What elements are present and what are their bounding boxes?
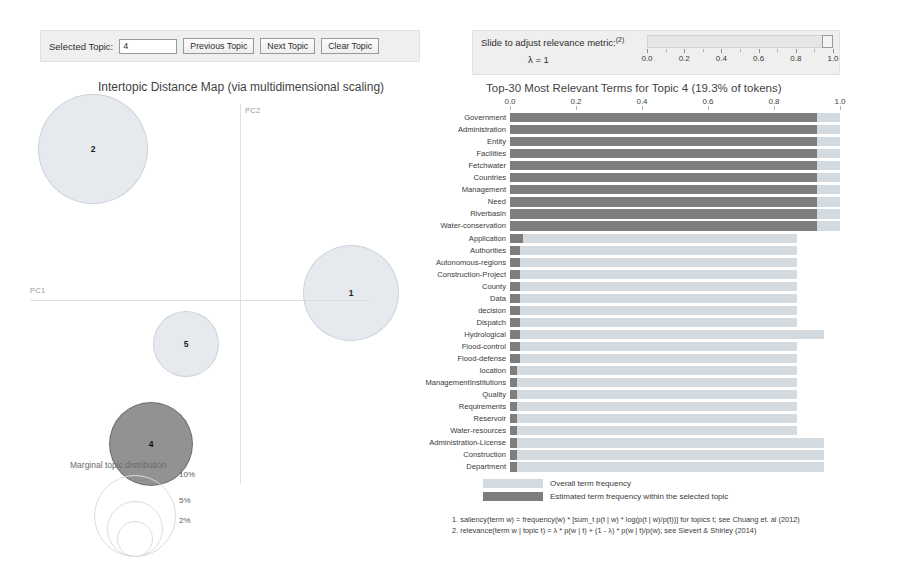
bar-row[interactable]: Reservoir <box>510 414 840 423</box>
bar-term-label[interactable]: location <box>480 365 506 376</box>
bar-row[interactable]: Construction <box>510 450 840 459</box>
legend-swatch-selected <box>483 492 543 501</box>
bar-row[interactable]: Authorities <box>510 246 840 255</box>
bar-topic-frequency <box>510 113 817 122</box>
bar-row[interactable]: Water-conservation <box>510 221 840 230</box>
bar-term-label[interactable]: Requirements <box>459 401 506 412</box>
bar-term-label[interactable]: Administration <box>458 124 506 135</box>
bar-overall-frequency <box>510 366 797 375</box>
bar-row[interactable]: Data <box>510 294 840 303</box>
bar-term-label[interactable]: Water-conservation <box>440 220 506 231</box>
bar-term-label[interactable]: Application <box>469 233 506 244</box>
bar-term-label[interactable]: Riverbasin <box>470 208 506 219</box>
slider-tick <box>647 49 648 53</box>
relevance-slider-track[interactable] <box>647 35 833 48</box>
bar-topic-frequency <box>510 390 517 399</box>
bar-topic-frequency <box>510 221 817 230</box>
bar-row[interactable]: Countries <box>510 173 840 182</box>
bar-row[interactable]: Administration-License <box>510 438 840 447</box>
marginal-size-label: 2% <box>179 516 191 525</box>
relevance-slider-panel: Slide to adjust relevance metric:(2) λ =… <box>472 30 840 75</box>
relevance-slider-handle[interactable] <box>822 35 833 48</box>
bar-overall-frequency <box>510 390 797 399</box>
bar-row[interactable]: Autonomous-regions <box>510 258 840 267</box>
clear-topic-button[interactable]: Clear Topic <box>321 38 379 54</box>
bar-row[interactable]: Quality <box>510 390 840 399</box>
bar-topic-frequency <box>510 125 817 134</box>
bar-axis-tick-label: 0.6 <box>702 97 713 106</box>
bar-topic-frequency <box>510 330 520 339</box>
bar-term-label[interactable]: Entity <box>487 136 506 147</box>
bar-row[interactable]: Fetchwater <box>510 161 840 170</box>
topic-circle-1[interactable]: 1 <box>303 245 399 341</box>
bar-topic-frequency <box>510 149 817 158</box>
bar-row[interactable]: County <box>510 282 840 291</box>
marginal-topic-distribution-title: Marginal topic distribution <box>70 460 166 470</box>
bar-row[interactable]: Administration <box>510 125 840 134</box>
selected-topic-input[interactable] <box>119 39 177 54</box>
bar-row[interactable]: Dispatch <box>510 318 840 327</box>
previous-topic-button[interactable]: Previous Topic <box>183 38 254 54</box>
bar-overall-frequency <box>510 258 797 267</box>
bar-row[interactable]: Riverbasin <box>510 209 840 218</box>
legend-row-selected: Estimated term frequency within the sele… <box>483 491 728 502</box>
bar-row[interactable]: Government <box>510 113 840 122</box>
bar-row[interactable]: Department <box>510 462 840 471</box>
bar-row[interactable]: location <box>510 366 840 375</box>
bar-term-label[interactable]: Flood-defense <box>457 353 506 364</box>
bar-term-label[interactable]: County <box>482 281 506 292</box>
bar-term-label[interactable]: Countries <box>474 172 507 183</box>
bar-row[interactable]: Hydrological <box>510 330 840 339</box>
bar-term-label[interactable]: Reservoir <box>474 413 507 424</box>
topic-circle-2[interactable]: 2 <box>38 94 148 204</box>
bar-term-label[interactable]: ManagementInstitutions <box>425 377 506 388</box>
bar-overall-frequency <box>510 306 797 315</box>
bar-term-label[interactable]: Management <box>462 184 506 195</box>
bar-row[interactable]: Flood-control <box>510 342 840 351</box>
bar-topic-frequency <box>510 246 520 255</box>
bar-row[interactable]: Management <box>510 185 840 194</box>
bar-axis-tick <box>576 106 577 110</box>
bar-term-label[interactable]: Flood-control <box>462 341 506 352</box>
bar-term-label[interactable]: Dispatch <box>476 317 506 328</box>
bar-term-label[interactable]: Hydrological <box>464 329 506 340</box>
bar-row[interactable]: ManagementInstitutions <box>510 378 840 387</box>
slider-tick <box>814 49 815 52</box>
bar-term-label[interactable]: Authorities <box>470 245 506 256</box>
bar-term-label[interactable]: Administration-License <box>429 437 506 448</box>
bar-overall-frequency <box>510 294 797 303</box>
bar-row[interactable]: decision <box>510 306 840 315</box>
next-topic-button[interactable]: Next Topic <box>260 38 315 54</box>
bar-term-label[interactable]: Fetchwater <box>468 160 506 171</box>
bar-term-label[interactable]: Construction-Project <box>437 269 506 280</box>
intertopic-distance-map[interactable]: PC1 PC2 2154 <box>30 100 370 500</box>
bar-row[interactable]: Need <box>510 197 840 206</box>
bar-topic-frequency <box>510 462 517 471</box>
bar-row[interactable]: Facilities <box>510 149 840 158</box>
bar-term-label[interactable]: Data <box>490 293 506 304</box>
bar-overall-frequency <box>510 234 797 243</box>
bar-overall-frequency <box>510 462 824 471</box>
bar-term-label[interactable]: Need <box>488 196 506 207</box>
marginal-size-circle-10% <box>94 475 176 557</box>
bar-topic-frequency <box>510 270 520 279</box>
bar-term-label[interactable]: decision <box>478 305 506 316</box>
bar-row[interactable]: Entity <box>510 137 840 146</box>
bar-row[interactable]: Requirements <box>510 402 840 411</box>
bar-term-label[interactable]: Water-resources <box>450 425 506 436</box>
bar-topic-frequency <box>510 450 517 459</box>
bar-row[interactable]: Construction-Project <box>510 270 840 279</box>
bar-term-label[interactable]: Facilities <box>476 148 506 159</box>
bar-term-label[interactable]: Quality <box>482 389 506 400</box>
slider-tick <box>833 49 834 53</box>
bar-term-label[interactable]: Construction <box>463 449 506 460</box>
bar-term-label[interactable]: Department <box>466 461 506 472</box>
bar-row[interactable]: Application <box>510 234 840 243</box>
relevance-slider-label: Slide to adjust relevance metric:(2) <box>481 36 624 48</box>
topic-circle-5[interactable]: 5 <box>153 311 219 377</box>
relevance-slider-label-text: Slide to adjust relevance metric: <box>481 37 616 48</box>
bar-row[interactable]: Water-resources <box>510 426 840 435</box>
bar-term-label[interactable]: Government <box>464 112 506 123</box>
bar-row[interactable]: Flood-defense <box>510 354 840 363</box>
bar-term-label[interactable]: Autonomous-regions <box>436 257 506 268</box>
